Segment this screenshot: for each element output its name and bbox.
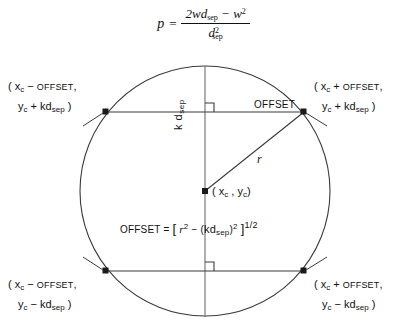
corner-label-top-right: ( xc + OFFSET, yc + kdsep ): [314, 78, 383, 118]
vertex-dot-bottom-left: [103, 268, 109, 274]
br-open: ( x: [314, 278, 326, 290]
oe-lhs: OFFSET: [120, 224, 160, 235]
bl-close: ): [68, 298, 72, 310]
radius-label: r: [257, 152, 262, 167]
br-op2: −: [335, 298, 341, 310]
offset-equation-label: OFFSET = [ r2 − (kdsep)2 ]1/2: [120, 220, 258, 237]
tr-sub2: c: [328, 105, 332, 114]
tr-op: +: [333, 80, 339, 92]
bl-sub: c: [20, 283, 24, 292]
leader-line-bottom-right: [306, 257, 327, 270]
center-point-label: ( xc , yc): [212, 185, 251, 199]
center-point-dot: [202, 188, 208, 194]
tr-close: ): [372, 100, 376, 112]
tl-term2-sub: sep: [52, 105, 65, 114]
bl-op: −: [27, 278, 33, 290]
br-term2-sub: sep: [356, 303, 369, 312]
br-term2: kd: [344, 298, 356, 310]
radius-line: [205, 112, 304, 191]
oe-equals: =: [163, 224, 169, 235]
vertex-dot-bottom-right: [301, 268, 307, 274]
tl-sub2: c: [24, 105, 28, 114]
right-angle-marker-upper: [205, 103, 214, 112]
br-term: OFFSET: [343, 280, 380, 290]
tl-comma: ,: [74, 80, 77, 92]
tl-sub: c: [20, 85, 24, 94]
tl-close: ): [68, 100, 72, 112]
tr-open: ( x: [314, 80, 326, 92]
tr-term2: kd: [344, 100, 356, 112]
corner-label-bottom-left: ( xc − OFFSET, yc − kdsep ): [8, 276, 77, 316]
cp-open: ( x: [212, 185, 224, 197]
bl-term: OFFSET: [37, 280, 74, 290]
cp-comma: ,: [231, 185, 234, 197]
vertex-dot-top-right: [301, 109, 307, 115]
kd-sub: sep: [177, 99, 186, 113]
oe-kd-sub: sep: [216, 228, 230, 237]
tl-term2: kd: [40, 100, 52, 112]
oe-power: 1/2: [244, 220, 257, 230]
oe-kd: kd: [204, 223, 216, 235]
corner-label-top-left: ( xc − OFFSET, yc + kdsep ): [8, 78, 77, 118]
cp-sub1: c: [224, 190, 228, 199]
tr-term: OFFSET: [343, 82, 380, 92]
offset-segment-label: OFFSET: [254, 99, 295, 110]
bl-op2: −: [31, 298, 37, 310]
bl-sub2: c: [24, 303, 28, 312]
tr-term2-sub: sep: [356, 105, 369, 114]
kd-main: k d: [172, 114, 184, 130]
corner-label-bottom-right: ( xc + OFFSET, yc − kdsep ): [314, 276, 383, 316]
br-close: ): [372, 298, 376, 310]
bl-comma: ,: [74, 278, 77, 290]
br-sub2: c: [328, 303, 332, 312]
cp-close: ): [247, 185, 251, 197]
tr-comma: ,: [380, 80, 383, 92]
tr-op2: +: [335, 100, 341, 112]
tl-open: ( x: [8, 80, 20, 92]
figure-canvas: p = 2wdsep−w2 d2sep: [0, 0, 407, 336]
vertex-dot-top-left: [103, 109, 109, 115]
bl-term2-sub: sep: [52, 303, 65, 312]
br-op: +: [333, 278, 339, 290]
oe-open-bracket: [: [172, 221, 176, 236]
tr-sub: c: [326, 85, 330, 94]
br-comma: ,: [380, 278, 383, 290]
oe-r-exp: 2: [184, 222, 189, 231]
br-sub: c: [326, 283, 330, 292]
right-angle-marker-lower: [205, 262, 214, 271]
tl-op: −: [27, 80, 33, 92]
vertical-distance-label: k dsep: [172, 99, 186, 130]
oe-minus: −: [191, 224, 197, 235]
bl-term2: kd: [40, 298, 52, 310]
tl-op2: +: [31, 100, 37, 112]
tl-term: OFFSET: [37, 82, 74, 92]
oe-kd-exp: 2: [233, 222, 238, 231]
bl-open: ( x: [8, 278, 20, 290]
